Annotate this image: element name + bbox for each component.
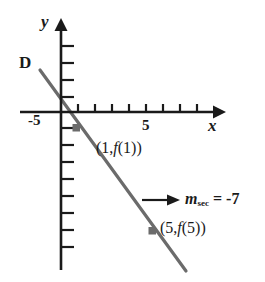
data-point-marker-2 — [149, 227, 157, 235]
curve-label-d: D — [19, 54, 31, 71]
y-tick-label-neg5: -5 — [28, 113, 41, 128]
y-axis-label: y — [41, 13, 49, 30]
x-axis-label: x — [208, 117, 217, 134]
point-label-2-close: (5)) — [182, 219, 206, 236]
x-tick-label-5: 5 — [142, 118, 150, 133]
slope-value: = -7 — [213, 190, 239, 207]
arrow-up-icon-y-axis — [55, 18, 68, 31]
slope-subscript: sec — [197, 198, 209, 208]
secant-line-figure: y x D 5 -5 (1,f(1)) msec = -7 (5,f(5)) — [0, 0, 265, 282]
slope-symbol: m — [185, 190, 197, 207]
point-label-1-close: (1)) — [118, 139, 142, 156]
slope-annotation: msec = -7 — [185, 191, 239, 207]
y-axis-ticks — [61, 46, 74, 247]
point-label-2-open: (5, — [160, 219, 177, 236]
point-label-1-open: (1, — [96, 139, 113, 156]
data-point-marker-1 — [73, 124, 81, 132]
point-label-2: (5,f(5)) — [160, 220, 206, 236]
point-label-1: (1,f(1)) — [96, 140, 142, 156]
arrow-right-icon-callout — [142, 195, 180, 206]
